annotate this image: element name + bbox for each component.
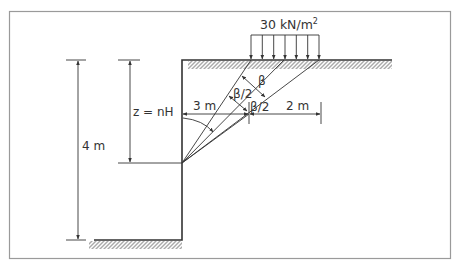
retaining-wall-diagram: 30 kN/m2 4 m z = nH 3 m 2 m β β/2 β/2	[0, 0, 455, 265]
half-beta-left-label: β/2	[233, 87, 252, 101]
height-label: 4 m	[82, 139, 105, 153]
right-distance-label: 2 m	[286, 99, 309, 113]
half-beta-right-label: β/2	[250, 100, 269, 114]
top-ground-hatching	[188, 61, 392, 69]
figure-frame	[10, 12, 451, 259]
bottom-ground-hatching	[89, 241, 182, 249]
depth-label: z = nH	[133, 105, 174, 119]
left-distance-label: 3 m	[193, 99, 216, 113]
load-label: 30 kN/m2	[260, 17, 318, 32]
beta-label: β	[258, 74, 266, 88]
